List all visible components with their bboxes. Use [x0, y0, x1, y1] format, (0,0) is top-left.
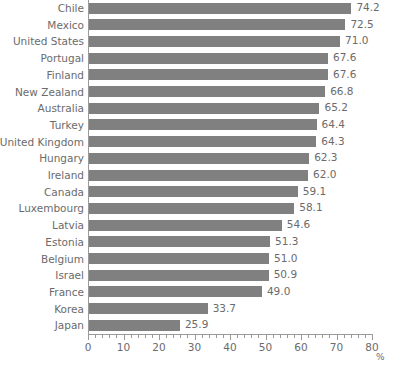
x-tick-minor [294, 335, 295, 338]
bar [88, 220, 282, 231]
x-tick-minor [244, 335, 245, 338]
category-label: Korea [54, 303, 84, 315]
category-label: Ireland [48, 169, 84, 181]
x-tick-label: 70 [330, 341, 343, 353]
bar-row: 51.3 [88, 234, 372, 250]
category-axis-labels: ChileMexicoUnited StatesPortugalFinlandN… [0, 0, 84, 334]
bar [88, 3, 351, 14]
bar [88, 170, 308, 181]
x-tick-major [124, 335, 125, 340]
category-label: Australia [38, 102, 84, 114]
bar-value-label: 67.6 [333, 68, 356, 80]
x-tick-minor [102, 335, 103, 338]
x-tick-major [372, 335, 373, 340]
bar [88, 186, 298, 197]
x-tick-label: 30 [188, 341, 201, 353]
bar [88, 36, 340, 47]
bar-value-label: 33.7 [213, 302, 236, 314]
bar-value-label: 74.2 [356, 1, 379, 13]
x-tick-minor [116, 335, 117, 338]
category-label: Estonia [45, 236, 84, 248]
bar [88, 103, 319, 114]
x-tick-minor [138, 335, 139, 338]
bar-row: 67.6 [88, 67, 372, 83]
bar [88, 69, 328, 80]
bar-row: 64.3 [88, 134, 372, 150]
x-tick-minor [202, 335, 203, 338]
category-label: New Zealand [15, 86, 84, 98]
bar-value-label: 64.3 [321, 135, 344, 147]
x-tick-minor [216, 335, 217, 338]
x-tick-major [88, 335, 89, 340]
bar-row: 66.8 [88, 84, 372, 100]
category-label: Belgium [41, 253, 84, 265]
category-label: France [49, 286, 84, 298]
bar-value-label: 64.4 [322, 118, 345, 130]
bar-value-label: 51.3 [275, 235, 298, 247]
x-tick-minor [180, 335, 181, 338]
bar-value-label: 51.0 [274, 252, 297, 264]
bar-value-label: 62.0 [313, 168, 336, 180]
bar [88, 203, 294, 214]
category-label: Luxembourg [19, 202, 84, 214]
bar-row: 51.0 [88, 251, 372, 267]
bar [88, 236, 270, 247]
bar-row: 50.9 [88, 267, 372, 283]
bar-row: 59.1 [88, 184, 372, 200]
x-tick-minor [329, 335, 330, 338]
bar [88, 320, 180, 331]
bar-row: 74.2 [88, 0, 372, 16]
x-tick-major [195, 335, 196, 340]
bar-row: 72.5 [88, 17, 372, 33]
x-tick-label: 10 [117, 341, 130, 353]
bar [88, 303, 208, 314]
bar [88, 119, 317, 130]
bar [88, 153, 309, 164]
bar [88, 270, 269, 281]
x-tick-minor [258, 335, 259, 338]
x-tick-minor [95, 335, 96, 338]
x-tick-label: 50 [259, 341, 272, 353]
x-tick-minor [273, 335, 274, 338]
x-tick-minor [209, 335, 210, 338]
x-tick-minor [173, 335, 174, 338]
bar [88, 53, 328, 64]
category-label: Hungary [39, 152, 84, 164]
category-label: Portugal [41, 52, 85, 64]
x-tick-major [301, 335, 302, 340]
x-tick-minor [308, 335, 309, 338]
x-tick-minor [322, 335, 323, 338]
bar-value-label: 72.5 [350, 18, 373, 30]
x-tick-minor [358, 335, 359, 338]
bar [88, 286, 262, 297]
y-axis-line [88, 0, 89, 334]
bar-row: 67.6 [88, 50, 372, 66]
bar [88, 136, 316, 147]
bar-value-label: 66.8 [330, 85, 353, 97]
x-tick-minor [280, 335, 281, 338]
x-tick-major [337, 335, 338, 340]
x-tick-minor [145, 335, 146, 338]
bar-value-label: 54.6 [287, 218, 310, 230]
x-tick-minor [187, 335, 188, 338]
bar-value-label: 25.9 [185, 318, 208, 330]
bar-row: 33.7 [88, 301, 372, 317]
x-tick-label: 0 [85, 341, 92, 353]
bar-value-label: 58.1 [299, 201, 322, 213]
bar [88, 86, 325, 97]
x-tick-minor [344, 335, 345, 338]
category-label: Latvia [52, 219, 84, 231]
category-label: United States [13, 35, 84, 47]
bar-row: 25.9 [88, 317, 372, 333]
category-label: Finland [46, 69, 84, 81]
x-tick-major [230, 335, 231, 340]
bar-row: 58.1 [88, 200, 372, 216]
plot-area: 74.272.571.067.667.666.865.264.464.362.3… [88, 0, 372, 334]
x-tick-minor [223, 335, 224, 338]
bar-row: 64.4 [88, 117, 372, 133]
x-tick-label: 20 [152, 341, 165, 353]
x-tick-label: 40 [223, 341, 236, 353]
bar-value-label: 50.9 [274, 268, 297, 280]
bar-row: 54.6 [88, 217, 372, 233]
x-tick-minor [109, 335, 110, 338]
